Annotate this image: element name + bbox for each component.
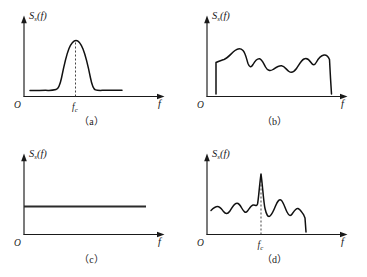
panel-caption-a: （a） [0, 113, 183, 128]
y-axis-label-d: Ss(f) [212, 148, 230, 160]
spectrum-curve-b [216, 49, 332, 94]
x-axis-label-b: f [341, 98, 346, 109]
x-axis-label-a: f [158, 98, 163, 109]
y-axis-arrow-c [21, 154, 27, 162]
carrier-tick-label-a: fc [72, 102, 78, 113]
spectrum-curve-a [30, 40, 122, 90]
x-axis-label-c: f [158, 236, 163, 247]
origin-label-b: O [197, 100, 204, 110]
y-axis-label-b: Ss(f) [212, 10, 230, 22]
y-axis-label-a: Ss(f) [29, 10, 47, 22]
spectrum-curve-d [211, 174, 306, 232]
origin-label-d: O [197, 238, 204, 248]
y-axis-arrow-b [204, 16, 210, 24]
panel-caption-b: （b） [183, 113, 366, 128]
origin-label-a: O [14, 100, 21, 110]
origin-label-c: O [14, 238, 21, 248]
panel-caption-d: （d） [183, 251, 366, 266]
x-axis-label-d: f [341, 236, 346, 247]
y-axis-arrow-d [204, 154, 210, 162]
y-axis-arrow-a [21, 16, 27, 24]
spectral-density-figure: Ss(f) f O fc （a） Ss(f) f O （b） [0, 0, 367, 277]
panel-caption-c: （c） [0, 251, 183, 266]
y-axis-label-c: Ss(f) [29, 148, 47, 160]
carrier-tick-label-d: fc [258, 240, 264, 251]
